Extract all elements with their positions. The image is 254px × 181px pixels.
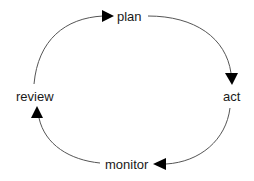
node-act: act [223, 89, 241, 104]
arrowhead-to-act [225, 73, 238, 85]
edge-monitor-to-review [39, 118, 100, 163]
node-plan: plan [117, 9, 142, 24]
edge-plan-to-act [148, 16, 231, 73]
arrowhead-to-monitor [153, 158, 166, 170]
edge-review-to-plan [34, 16, 103, 84]
arrowhead-to-plan [102, 10, 114, 22]
node-review: review [16, 89, 54, 104]
arrowhead-to-review [31, 106, 43, 118]
node-monitor: monitor [105, 157, 149, 172]
edge-act-to-monitor [166, 108, 230, 164]
cycle-diagram: plan act monitor review [0, 0, 254, 181]
